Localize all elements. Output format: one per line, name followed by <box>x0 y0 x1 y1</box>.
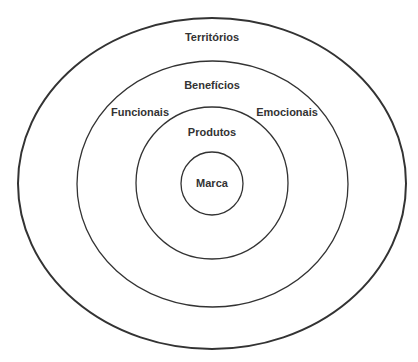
concentric-diagram: Territórios Benefícios Funcionais Emocio… <box>0 0 418 362</box>
label-emocionais: Emocionais <box>256 106 318 118</box>
label-territorios: Territórios <box>185 31 239 43</box>
label-funcionais: Funcionais <box>111 106 169 118</box>
label-beneficios: Benefícios <box>184 79 240 91</box>
label-marca: Marca <box>196 177 229 189</box>
label-produtos: Produtos <box>188 126 236 138</box>
